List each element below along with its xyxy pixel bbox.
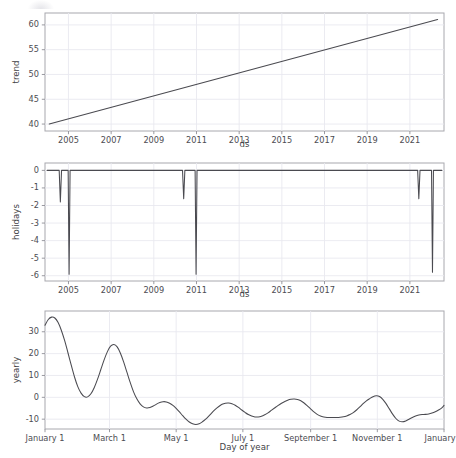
holidays-chart: 0-1-2-3-4-5-6200520072009201120132015201… xyxy=(0,150,456,305)
yearly-ytick-label: 20 xyxy=(29,348,39,358)
holidays-ytick-label: -3 xyxy=(31,218,39,228)
yearly-ytick-label: 30 xyxy=(29,326,39,336)
holidays-yaxis-label: holidays xyxy=(11,204,21,240)
prophet-components-figure: 4045505560200520072009201120132015201720… xyxy=(0,0,456,458)
holidays-panel: 0-1-2-3-4-5-6200520072009201120132015201… xyxy=(0,150,456,305)
yearly-xtick-label: January 1 xyxy=(424,433,456,443)
holidays-xtick-label: 2011 xyxy=(186,285,207,295)
trend-xtick-label: 2019 xyxy=(357,135,378,145)
holidays-xtick-label: 2021 xyxy=(399,285,420,295)
yearly-xtick-label: September 1 xyxy=(284,433,337,443)
holidays-ytick-label: -2 xyxy=(31,200,39,210)
yearly-chart: 3020100-10January 1March 1May 1July 1Sep… xyxy=(0,300,456,458)
trend-ytick-label: 55 xyxy=(29,44,39,54)
yearly-xtick-label: January 1 xyxy=(25,433,65,443)
trend-chart: 4045505560200520072009201120132015201720… xyxy=(0,0,456,155)
holidays-ytick-label: 0 xyxy=(34,165,39,175)
holidays-ytick-label: -6 xyxy=(31,270,39,280)
holidays-ytick-label: -5 xyxy=(31,253,39,263)
yearly-ytick-label: -10 xyxy=(26,414,39,424)
yearly-xtick-label: November 1 xyxy=(352,433,402,443)
yearly-xaxis-label: Day of year xyxy=(220,442,270,452)
holidays-xtick-label: 2009 xyxy=(143,285,164,295)
yearly-yaxis-label: yearly xyxy=(11,357,21,384)
trend-ytick-label: 60 xyxy=(29,19,39,29)
holidays-xtick-label: 2019 xyxy=(357,285,378,295)
trend-ytick-label: 50 xyxy=(29,69,39,79)
trend-xtick-label: 2005 xyxy=(58,135,79,145)
trend-xtick-label: 2007 xyxy=(101,135,122,145)
trend-xtick-label: 2011 xyxy=(186,135,207,145)
yearly-xtick-label: May 1 xyxy=(164,433,189,443)
holidays-ytick-label: -1 xyxy=(31,182,39,192)
holidays-ytick-label: -4 xyxy=(31,235,39,245)
holidays-xaxis-label: ds xyxy=(240,289,250,299)
yearly-ytick-label: 0 xyxy=(34,392,39,402)
holidays-xtick-label: 2007 xyxy=(101,285,122,295)
trend-ytick-label: 45 xyxy=(29,94,39,104)
trend-xaxis-label: ds xyxy=(240,139,250,149)
trend-xtick-label: 2015 xyxy=(271,135,292,145)
trend-yaxis-label: trend xyxy=(11,61,21,84)
yearly-plot-area xyxy=(45,311,444,429)
holidays-xtick-label: 2017 xyxy=(314,285,335,295)
trend-xtick-label: 2017 xyxy=(314,135,335,145)
trend-xtick-label: 2009 xyxy=(143,135,164,145)
trend-panel: 4045505560200520072009201120132015201720… xyxy=(0,0,456,155)
holidays-xtick-label: 2005 xyxy=(58,285,79,295)
holidays-xtick-label: 2015 xyxy=(271,285,292,295)
yearly-ytick-label: 10 xyxy=(29,370,39,380)
holidays-plot-area xyxy=(45,163,444,281)
trend-xtick-label: 2021 xyxy=(399,135,420,145)
yearly-xtick-label: March 1 xyxy=(93,433,126,443)
trend-ytick-label: 40 xyxy=(29,119,39,129)
yearly-panel: 3020100-10January 1March 1May 1July 1Sep… xyxy=(0,300,456,458)
